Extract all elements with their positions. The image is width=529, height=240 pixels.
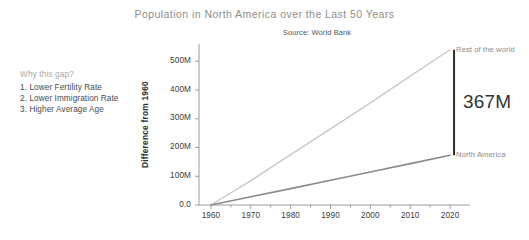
x-tick-marks	[211, 205, 450, 209]
y-tick-label: 500M	[157, 56, 191, 65]
plot-area: Difference from 1960 0.0100M200M300M400M…	[0, 0, 529, 240]
series-lines	[211, 50, 450, 205]
axes-group	[199, 44, 470, 205]
y-tick-label: 200M	[157, 142, 191, 151]
x-tick-label: 2010	[393, 211, 427, 220]
x-tick-label: 1980	[274, 211, 308, 220]
series-line-rest-of-the-world	[211, 50, 450, 205]
y-tick-label: 400M	[157, 85, 191, 94]
x-tick-label: 1970	[234, 211, 268, 220]
x-tick-label: 2000	[353, 211, 387, 220]
x-tick-label: 1990	[314, 211, 348, 220]
y-tick-label: 100M	[157, 171, 191, 180]
y-tick-label: 300M	[157, 113, 191, 122]
x-tick-label: 1960	[194, 211, 228, 220]
chart-page: Population in North America over the Las…	[0, 0, 529, 240]
series-label-rest-of-the-world: Rest of the world	[456, 45, 515, 54]
x-tick-label: 2020	[433, 211, 467, 220]
y-tick-label: 0.0	[157, 200, 191, 209]
chart-canvas	[0, 0, 529, 240]
series-label-north-america: North America	[456, 150, 505, 159]
gap-value-label: 367M	[463, 91, 511, 113]
y-tick-marks	[195, 61, 199, 205]
series-line-north-america	[211, 155, 450, 205]
